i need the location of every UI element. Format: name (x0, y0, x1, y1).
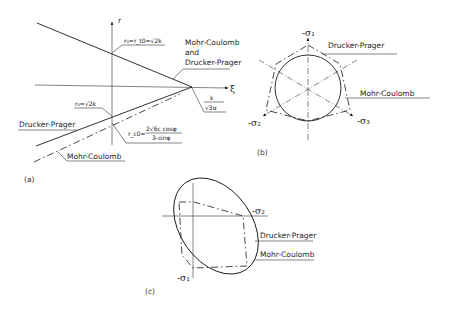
mohr-coulomb-polygon (179, 202, 247, 268)
r-axis-label: r (118, 16, 122, 25)
xi-axis (35, 85, 228, 88)
yield-surface-figure: r ξ r₀=r_t0=√2k Mohr-Coulomb and Drucker… (0, 0, 451, 314)
mc-intercept-denominator: 3-sinφ (152, 134, 171, 142)
sigma2-axis (263, 60, 357, 116)
drucker-prager-ellipse (156, 162, 276, 290)
panel-c-plane-stress: -σ₂ -σ₁ Drucker-Prager Mohr-Coulomb (c) (145, 162, 317, 296)
mc-intercept-leader (112, 123, 126, 143)
both-leader (173, 69, 183, 79)
both-label-3: Drucker-Prager (185, 58, 242, 67)
bottom-intercept-label: r₀=√2k (75, 100, 97, 107)
panel-c-caption: (c) (145, 287, 155, 296)
c-mc-label: Mohr-Coulomb (260, 250, 315, 259)
top-intercept-leader (112, 45, 122, 53)
panel-a-caption: (a) (24, 175, 35, 184)
sigma1-label: -σ₁ (302, 28, 315, 38)
top-intercept-label: r₀=r_t0=√2k (124, 37, 162, 45)
bottom-intercept-leader (102, 108, 112, 116)
c-dp-label: Drucker-Prager (260, 231, 317, 240)
sigma3-label: -σ₃ (357, 116, 370, 126)
mc-leader (58, 152, 67, 161)
c-sigma2-label: -σ₂ (252, 206, 265, 216)
c-sigma1-label: -σ₁ (177, 273, 190, 283)
apex-denominator: √3α (205, 104, 217, 111)
sigma3-axis (259, 60, 353, 116)
mc-intercept-lhs: r_c0= (128, 130, 146, 138)
xi-axis-label: ξ (230, 84, 235, 94)
both-label-2: and (185, 48, 199, 57)
b-dp-label: Drucker-Prager (328, 41, 385, 50)
sigma2-label: -σ₂ (248, 118, 261, 128)
dp-label: Drucker-Prager (19, 120, 76, 129)
upper-meridian-line (37, 23, 192, 87)
panel-b-caption: (b) (257, 148, 268, 157)
mc-label: Mohr-Coulomb (67, 152, 122, 161)
apex-numerator: k (210, 94, 214, 101)
panel-b-deviatoric-plane: -σ₁ -σ₂ -σ₃ Drucker-Prager Mohr-Coulomb … (248, 28, 430, 157)
apex-leader (192, 88, 204, 112)
b-mc-label: Mohr-Coulomb (360, 89, 415, 98)
panel-a-meridian-plane: r ξ r₀=r_t0=√2k Mohr-Coulomb and Drucker… (18, 16, 242, 184)
mc-intercept-numerator: 2√6c cosφ (146, 125, 177, 133)
both-label-1: Mohr-Coulomb (185, 38, 240, 47)
